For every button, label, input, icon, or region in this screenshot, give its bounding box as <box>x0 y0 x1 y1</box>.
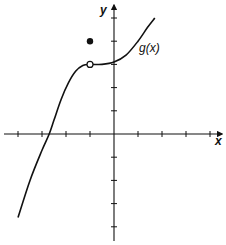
g-curve <box>18 18 155 218</box>
filled-dot-marker <box>87 38 93 44</box>
function-graph: x y g(x) <box>0 0 226 245</box>
curve-label: g(x) <box>139 41 160 55</box>
y-axis-label: y <box>99 3 108 17</box>
x-axis-label: x <box>214 134 223 148</box>
open-circle-marker <box>87 61 93 67</box>
